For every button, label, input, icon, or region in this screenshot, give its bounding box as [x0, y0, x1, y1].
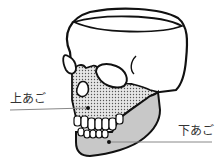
upper-jaw-label: 上あご	[10, 92, 46, 106]
lower-jaw-point	[107, 140, 111, 144]
upper-jaw-point	[86, 106, 90, 110]
nasal-cavity	[77, 82, 89, 97]
lower-jaw-label: 下あご	[178, 124, 214, 138]
skull-diagram	[0, 0, 218, 168]
